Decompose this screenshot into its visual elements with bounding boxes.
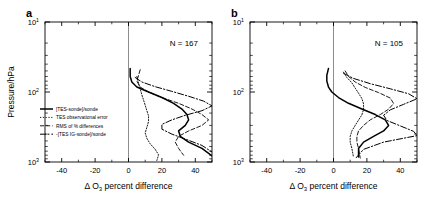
y-tick-label: 103 xyxy=(28,157,39,167)
y-tick-exponent: 2 xyxy=(241,87,244,93)
y-tick-exponent: 3 xyxy=(36,157,39,163)
panel-b: -40-2002040101102103N = 105Δ O3 percent … xyxy=(233,17,417,192)
figure-svg: -40-2002040101102103N = 167Δ O3 percent … xyxy=(0,0,439,202)
panel-a-label: a xyxy=(26,7,33,19)
x-tick-label: 20 xyxy=(158,166,166,175)
series-line xyxy=(344,73,417,159)
figure-canvas: -40-2002040101102103N = 167Δ O3 percent … xyxy=(0,0,439,202)
y-tick-exponent: 1 xyxy=(36,17,39,23)
panel-a: -40-2002040101102103N = 167Δ O3 percent … xyxy=(6,17,212,192)
sample-size-annotation: N = 167 xyxy=(170,39,199,48)
data-curves xyxy=(130,68,212,160)
x-tick-label: -20 xyxy=(295,166,306,175)
figure-legend: [TES-sonde]/sondeTES observational error… xyxy=(40,107,108,137)
series-line xyxy=(135,77,212,152)
x-tick-label: 20 xyxy=(363,166,371,175)
x-tick-label: 0 xyxy=(331,166,335,175)
x-tick-label: -20 xyxy=(90,166,101,175)
legend-label: [TES-sonde]/sonde xyxy=(56,107,98,112)
x-axis-label: Δ O3 percent difference xyxy=(290,181,378,192)
data-curves xyxy=(327,68,417,158)
series-line xyxy=(130,68,212,156)
y-tick-label: 102 xyxy=(28,87,39,97)
y-tick-exponent: 1 xyxy=(241,17,244,23)
x-axis-label: Δ O3 percent difference xyxy=(85,181,173,192)
legend-label: TES observational error xyxy=(56,115,108,120)
legend-label: -[TES IG-sonde]/sonde xyxy=(56,132,106,137)
figure-container: -40-2002040101102103N = 167Δ O3 percent … xyxy=(0,0,439,202)
x-tick-label: 0 xyxy=(126,166,130,175)
sample-size-annotation: N = 105 xyxy=(375,39,404,48)
x-tick-label: 40 xyxy=(396,166,404,175)
y-axis-label: Pressure/hPa xyxy=(6,66,16,118)
legend-label: RMS of % differences xyxy=(56,124,104,129)
y-tick-label: 103 xyxy=(233,157,244,167)
y-tick-exponent: 3 xyxy=(241,157,244,163)
x-tick-label: -40 xyxy=(261,166,272,175)
y-tick-exponent: 2 xyxy=(36,87,39,93)
x-tick-label: -40 xyxy=(56,166,67,175)
x-tick-label: 40 xyxy=(191,166,199,175)
y-tick-label: 102 xyxy=(233,87,244,97)
panel-b-label: b xyxy=(231,7,238,19)
